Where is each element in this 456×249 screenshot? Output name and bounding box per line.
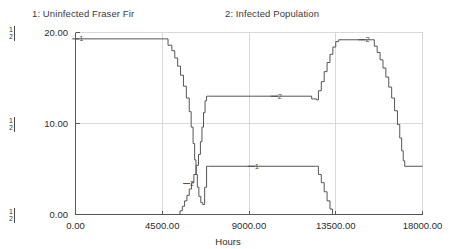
series-marker-label-2: 2 <box>190 179 194 188</box>
x-axis-label: 18000.00 <box>391 220 455 231</box>
x-axis-label: 13500.00 <box>304 220 368 231</box>
y-axis-tag-rule <box>14 117 15 132</box>
legend-entry-infected-population: 2: Infected Population <box>225 8 319 19</box>
x-axis-label: 0.00 <box>44 220 108 231</box>
y-axis-series-tag-1: 1 <box>4 117 13 124</box>
legend-entry-uninfected-fraser-fir: 1: Uninfected Fraser Fir <box>32 8 134 19</box>
y-axis-tag-rule <box>14 208 15 223</box>
y-axis-series-tag: 12 <box>4 208 13 222</box>
y-axis-label: 20.00 <box>22 27 68 38</box>
y-axis-series-tag: 12 <box>4 26 13 40</box>
chart-screenshot: 1: Uninfected Fraser Fir 2: Infected Pop… <box>0 0 456 249</box>
y-axis-series-tag: 12 <box>4 117 13 131</box>
y-axis-tag-rule <box>14 26 15 41</box>
x-axis-title: Hours <box>0 236 456 247</box>
series-marker-label-1: 1 <box>255 162 259 171</box>
x-axis-label: 9000.00 <box>217 220 281 231</box>
chart-legend: 1: Uninfected Fraser Fir 2: Infected Pop… <box>0 8 456 24</box>
x-axis-label: 4500.00 <box>130 220 194 231</box>
y-axis-label: 0.00 <box>22 209 68 220</box>
y-axis-label: 10.00 <box>22 118 68 129</box>
y-axis-series-tag-2: 2 <box>4 215 13 222</box>
series-marker-label-2: 2 <box>278 92 282 101</box>
y-axis-series-tag-1: 1 <box>4 26 13 33</box>
series-marker-label-1: 1 <box>79 34 83 43</box>
y-axis-series-tag-2: 2 <box>4 33 13 40</box>
series-marker-label-2: 2 <box>365 35 369 44</box>
plot-canvas: 11222 <box>0 0 456 249</box>
y-axis-series-tag-2: 2 <box>4 124 13 131</box>
y-axis-series-tag-1: 1 <box>4 208 13 215</box>
